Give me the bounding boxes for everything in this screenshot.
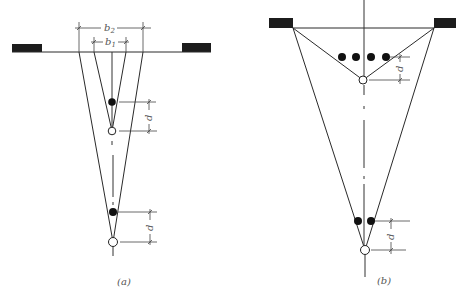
caption-b: (b) <box>377 275 391 286</box>
inner-left-line <box>94 52 112 131</box>
dimension-b1: b1 <box>91 36 129 52</box>
outer-right-line <box>365 28 434 250</box>
panel-b: d d (b) <box>269 0 456 286</box>
filled-point-lower-left <box>354 217 362 225</box>
b2-label: b2 <box>104 22 115 35</box>
filled-point <box>382 53 390 61</box>
center-axis <box>364 0 365 277</box>
filled-point <box>352 53 360 61</box>
open-point-lower <box>361 246 370 255</box>
inner-right-line <box>112 52 126 131</box>
right-support-block <box>434 18 456 28</box>
left-support-block <box>12 44 42 52</box>
panel-a: b2 b1 d <box>12 22 211 287</box>
left-support-block <box>269 18 293 28</box>
outer-right-line <box>113 52 143 242</box>
filled-point-lower <box>109 208 117 216</box>
upper-v-left-line <box>293 28 363 80</box>
dimension-d-upper: d <box>119 99 157 134</box>
filled-point-lower-right <box>367 217 375 225</box>
outer-left-line <box>293 28 365 250</box>
dimension-d-lower: d <box>371 218 410 254</box>
filled-point <box>367 53 375 61</box>
b1-label: b1 <box>105 36 116 49</box>
open-point-upper <box>359 76 367 84</box>
filled-point <box>338 53 346 61</box>
d-label-lower: d <box>144 225 155 231</box>
open-point-lower <box>109 238 118 247</box>
center-axis <box>112 52 113 256</box>
dimension-d-lower: d <box>118 209 157 245</box>
d-label-upper: d <box>394 66 405 72</box>
caption-a: (a) <box>117 276 131 287</box>
open-point-upper <box>108 127 116 135</box>
d-label-lower: d <box>385 234 396 240</box>
d-label-upper: d <box>143 115 154 121</box>
figure-diagram: b2 b1 d <box>0 0 467 300</box>
filled-point-upper <box>108 98 116 106</box>
right-support-block <box>182 43 211 52</box>
outer-left-line <box>79 52 113 242</box>
